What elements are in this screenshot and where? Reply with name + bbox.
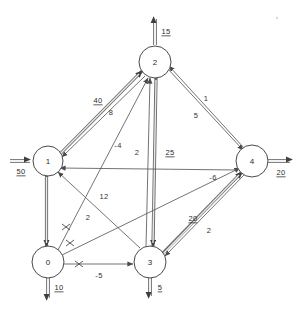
arc-label-4-to-1: -6 [209,173,216,182]
arc-0-to-3: -5 [64,261,133,280]
arc-label-0-to-3: -5 [95,271,102,280]
arc-label-4-to-2: 5 [194,111,199,120]
arc-label-0-to-1: 12 [99,192,108,201]
node-1-label: 1 [46,157,51,166]
node-4[interactable]: 4 [236,145,268,177]
arc-3-to-2: 2 [135,78,150,247]
demand-arrow-node-4: 20 [268,160,292,177]
node-0[interactable]: 0 [32,246,64,278]
arc-4-to-3: 2 [165,174,245,256]
demand-label-node-2: 15 [161,27,170,36]
arc-3-to-4: 20 [163,172,242,254]
arc-label-2-to-3: 25 [165,148,174,157]
blocked-marker-0-to-2 [62,224,70,230]
arc-label-3-to-4: 20 [188,214,197,223]
node-2-label: 2 [153,58,158,67]
network-flow-diagram: 50 15 20 10 5 [0,0,304,309]
demand-label-node-4: 20 [276,168,285,177]
arc-2-to-1: 8 [62,76,145,157]
node-2[interactable]: 2 [139,46,171,78]
arc-4-to-1: -6 [60,168,238,182]
supply-label-node-1: 50 [16,167,25,176]
demand-arrow-node-3: 5 [149,278,163,298]
demand-arrow-node-0: 10 [47,278,64,300]
node-0-label: 0 [46,258,51,267]
network-graph-canvas: 50 15 20 10 5 [0,0,304,309]
demand-arrow-node-2: 15 [154,17,171,45]
arc-label-4-to-3: 2 [207,226,212,235]
arc-label-0-to-2: -4 [114,141,121,150]
arc-label-2-to-1: 8 [109,108,114,117]
arc-4-to-2: 5 [169,66,244,148]
scan-speck [276,17,278,19]
supply-arrow-node-1: 50 [10,160,30,176]
blocked-marker-0-to-1 [66,240,74,246]
arc-label-0-to-4: 2 [86,213,91,222]
node-3-label: 3 [148,258,153,267]
demand-label-node-3: 5 [158,283,163,292]
arc-2-to-3: 25 [153,78,175,246]
node-1[interactable]: 1 [33,146,63,176]
arc-label-1-to-2: 40 [93,96,102,105]
arc-label-2-to-4: 1 [204,94,209,103]
arc-2-to-4: 1 [168,69,243,150]
node-4-label: 4 [250,157,255,166]
demand-label-node-0: 10 [54,283,63,292]
arc-0-to-2: -4 [58,78,148,250]
node-3[interactable]: 3 [134,246,166,278]
arc-label-3-to-2: 2 [135,148,140,157]
